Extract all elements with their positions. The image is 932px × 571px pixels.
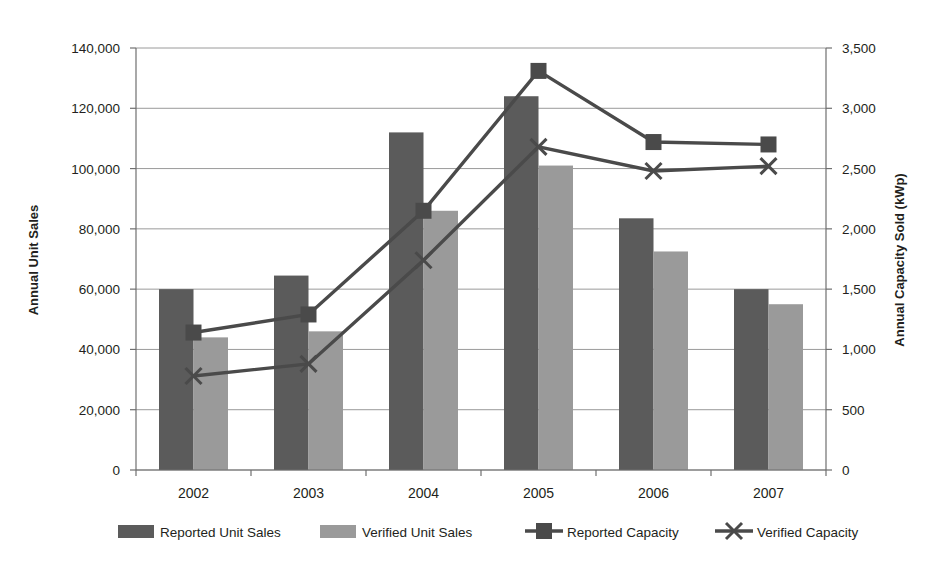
x-axis-tick-label: 2007: [753, 485, 784, 501]
x-axis-tick-label: 2006: [638, 485, 669, 501]
y2-axis-tick-label: 0: [842, 463, 850, 478]
legend-label: Verified Unit Sales: [362, 525, 473, 540]
square-marker-icon: [531, 63, 547, 79]
x-axis-tick-label: 2005: [523, 485, 554, 501]
bar: [389, 132, 424, 470]
dual-axis-bar-line-chart: 020,00040,00060,00080,000100,000120,0001…: [0, 0, 932, 571]
y2-axis-tick-label: 3,500: [842, 41, 876, 56]
legend-item[interactable]: Reported Unit Sales: [118, 525, 281, 540]
y2-axis-title: Annual Capacity Sold (kWp): [892, 173, 907, 346]
legend-swatch-verified-unit-sales: [320, 525, 356, 538]
y-axis-tick-label: 20,000: [79, 403, 120, 418]
square-marker-icon: [186, 325, 202, 341]
y2-axis-tick-label: 500: [842, 403, 865, 418]
bar: [769, 304, 804, 470]
legend-label: Reported Unit Sales: [160, 525, 281, 540]
square-marker-icon: [646, 134, 662, 150]
x-axis-tick-label: 2002: [178, 485, 209, 501]
square-marker-icon: [536, 523, 552, 539]
x-axis-tick-label: 2003: [293, 485, 324, 501]
legend-item[interactable]: Reported Capacity: [525, 523, 679, 540]
chart-container: 020,00040,00060,00080,000100,000120,0001…: [0, 0, 932, 571]
y2-axis-tick-label: 1,000: [842, 342, 876, 357]
chart-background: [0, 0, 932, 571]
y-axis-tick-label: 140,000: [71, 41, 120, 56]
y-axis-title: Annual Unit Sales: [26, 205, 41, 316]
square-marker-icon: [301, 306, 317, 322]
square-marker-icon: [761, 136, 777, 152]
bar: [424, 211, 459, 470]
y-axis-tick-label: 120,000: [71, 101, 120, 116]
y-axis-tick-label: 0: [112, 463, 120, 478]
y-axis-tick-label: 100,000: [71, 162, 120, 177]
square-marker-icon: [416, 203, 432, 219]
y-axis-tick-label: 60,000: [79, 282, 120, 297]
y2-axis-tick-label: 3,000: [842, 101, 876, 116]
y2-axis-tick-label: 1,500: [842, 282, 876, 297]
y-axis-tick-label: 80,000: [79, 222, 120, 237]
bar: [309, 331, 344, 470]
legend-swatch-reported-unit-sales: [118, 525, 154, 538]
bar: [539, 166, 574, 470]
bar: [619, 218, 654, 470]
bar: [654, 251, 689, 470]
bar: [734, 289, 769, 470]
legend-label: Verified Capacity: [757, 525, 859, 540]
bar: [274, 276, 309, 470]
y2-axis-tick-label: 2,000: [842, 222, 876, 237]
y2-axis-tick-label: 2,500: [842, 162, 876, 177]
y-axis-tick-label: 40,000: [79, 342, 120, 357]
legend-item[interactable]: Verified Unit Sales: [320, 525, 473, 540]
x-axis-tick-label: 2004: [408, 485, 439, 501]
bar: [194, 337, 229, 470]
legend-label: Reported Capacity: [567, 525, 679, 540]
